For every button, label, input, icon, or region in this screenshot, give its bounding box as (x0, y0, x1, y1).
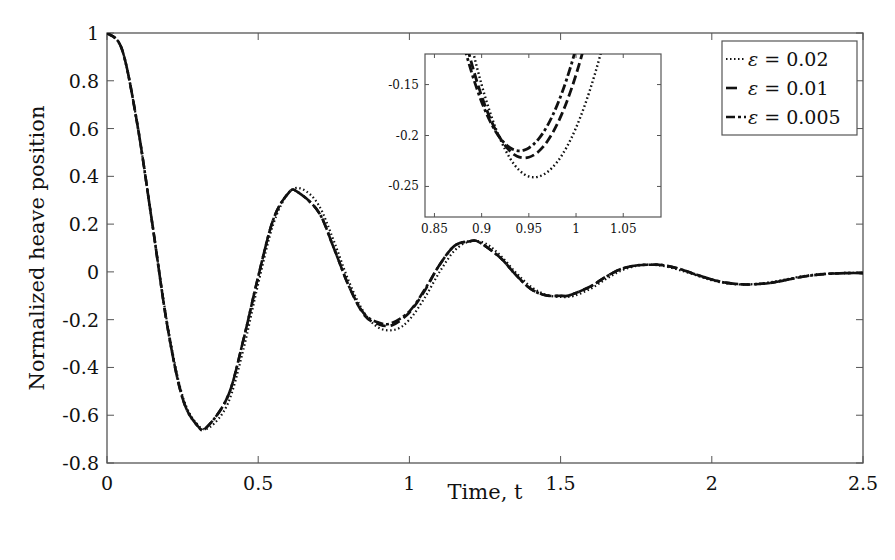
legend-eps-symbol: ε (748, 48, 758, 70)
y-tick-label: 0.6 (69, 118, 99, 140)
inset-x-tick-label: 1.05 (610, 222, 637, 236)
svg-text:ε = 0.02: ε = 0.02 (748, 48, 829, 70)
svg-text:ε = 0.01: ε = 0.01 (748, 77, 829, 99)
y-tick-label: -0.2 (62, 309, 99, 331)
legend-label: = 0.01 (758, 77, 828, 99)
inset-y-tick-label: -0.25 (388, 179, 419, 193)
y-tick-label: -0.8 (62, 452, 99, 474)
heave-position-chart: 00.511.522.5-0.8-0.6-0.4-0.200.20.40.60.… (0, 0, 895, 560)
y-tick-label: 1 (87, 22, 99, 44)
svg-text:ε = 0.005: ε = 0.005 (748, 106, 841, 128)
x-axis-label: Time, t (448, 480, 523, 504)
y-tick-label: 0 (87, 261, 99, 283)
inset-x-tick-label: 0.9 (472, 222, 491, 236)
legend-eps-symbol: ε (748, 106, 758, 128)
y-tick-label: 0.8 (69, 70, 99, 92)
inset-frame (425, 54, 661, 217)
inset-x-tick-label: 0.95 (515, 222, 542, 236)
x-tick-label: 2 (706, 472, 718, 494)
y-tick-label: -0.6 (62, 404, 99, 426)
x-tick-label: 0.5 (243, 472, 273, 494)
inset-y-tick-label: -0.15 (388, 78, 419, 92)
legend-label: = 0.02 (758, 48, 828, 70)
inset-x-tick-label: 1 (572, 222, 580, 236)
y-tick-label: -0.4 (62, 356, 99, 378)
y-tick-label: 0.4 (69, 165, 99, 187)
legend-eps-symbol: ε (748, 77, 758, 99)
legend: ε = 0.02 ε = 0.01 ε = 0.005 (722, 41, 857, 135)
y-tick-label: 0.2 (69, 213, 99, 235)
y-axis-label: Normalized heave position (25, 106, 49, 391)
legend-label: = 0.005 (758, 106, 840, 128)
inset-x-tick-label: 0.85 (421, 222, 448, 236)
x-tick-label: 0 (101, 472, 113, 494)
inset-y-tick-label: -0.2 (396, 129, 419, 143)
x-tick-label: 1 (403, 472, 415, 494)
x-tick-label: 1.5 (545, 472, 575, 494)
x-tick-label: 2.5 (848, 472, 878, 494)
